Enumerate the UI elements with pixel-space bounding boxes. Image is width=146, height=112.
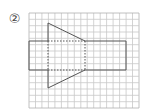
fold-lines-dashed xyxy=(48,41,85,70)
net-diagram xyxy=(0,0,146,112)
grid-paper xyxy=(29,13,139,108)
rectangle-face xyxy=(29,41,126,70)
trapezoid-face xyxy=(48,23,85,88)
